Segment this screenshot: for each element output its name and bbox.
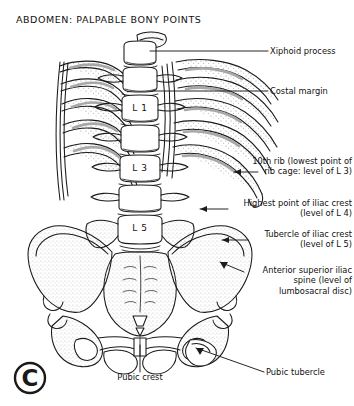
label-anterior-superior-iliac-spine: Anterior superior iliac spine (level of … (228, 265, 352, 296)
label-tubercle-iliac-crest: Tubercle of iliac crest (level of L 5) (228, 229, 352, 250)
label-tenth-rib: 10th rib (lowest point of rib cage: leve… (234, 156, 352, 177)
svg-text:C: C (22, 365, 39, 391)
label-xiphoid-process: Xiphoid process (270, 46, 336, 56)
rib-cage-right (162, 60, 278, 208)
sacrum (104, 252, 176, 336)
vertebra-label-l1: L 1 (122, 103, 158, 113)
label-pubic-tubercle: Pubic tubercle (266, 367, 325, 377)
label-pubic-crest: Pubic crest (100, 372, 180, 382)
vertebra-label-l5: L 5 (122, 223, 158, 233)
label-costal-margin: Costal margin (270, 86, 328, 96)
vertebra-label-l3: L 3 (122, 163, 158, 173)
label-highest-point-iliac-crest: Highest point of iliac crest (level of L… (228, 198, 352, 219)
